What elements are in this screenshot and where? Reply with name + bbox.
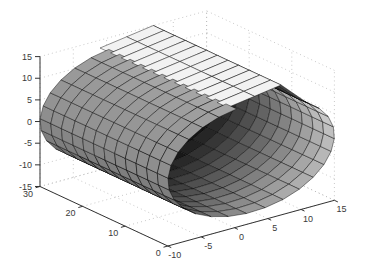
tick-label: -10: [19, 160, 32, 170]
tick-label: 5: [272, 223, 277, 233]
tick-label: 10: [22, 73, 32, 83]
matlab-figure: -15-10-50510150102030-10-5051015: [0, 0, 375, 277]
tick-label: 15: [22, 52, 32, 62]
tick-label: 10: [108, 228, 118, 238]
surface-plot-canvas: -15-10-50510150102030-10-5051015: [0, 0, 375, 277]
tick-label: -5: [24, 138, 32, 148]
tick-label: 5: [27, 95, 32, 105]
tick-label: 0: [27, 117, 32, 127]
tick-label: 10: [303, 214, 313, 224]
tick-label: 15: [336, 204, 346, 214]
tick-label: -10: [168, 250, 181, 260]
tick-label: 0: [156, 248, 161, 258]
tick-label: 30: [23, 189, 33, 199]
tick-label: -5: [204, 241, 212, 251]
tick-label: 20: [66, 208, 76, 218]
tick-label: 0: [239, 232, 244, 242]
